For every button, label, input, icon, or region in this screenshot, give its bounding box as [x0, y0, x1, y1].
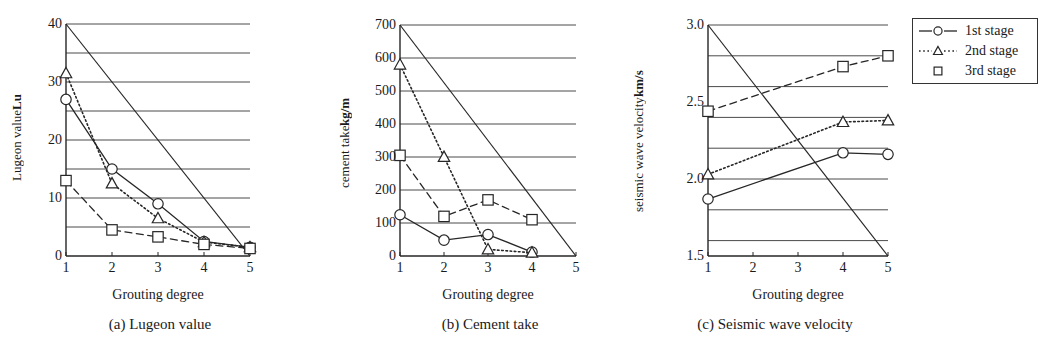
y-tick-label: 200 [356, 182, 396, 198]
data-point-square [527, 215, 537, 225]
x-tick-label: 4 [192, 260, 216, 276]
data-point-circle [395, 210, 405, 220]
data-point-triangle [438, 151, 449, 161]
x-tick-label: 4 [831, 260, 855, 276]
y-tick-label: 400 [356, 116, 396, 132]
data-point-circle [703, 194, 713, 204]
data-point-square [483, 195, 493, 205]
x-tick-label: 2 [100, 260, 124, 276]
data-point-triangle [702, 168, 713, 178]
y-tick-label: 600 [356, 50, 396, 66]
reference-line [400, 25, 576, 256]
y-tick-label: 20 [22, 132, 62, 148]
x-tick-label: 2 [432, 260, 456, 276]
data-point-circle [107, 164, 117, 174]
y-tick-label: 700 [356, 17, 396, 33]
data-point-circle [483, 229, 493, 239]
x-axis-title-b: Grouting degree [400, 287, 576, 303]
reference-line [708, 25, 888, 256]
data-point-triangle [106, 178, 117, 188]
y-tick-label: 2.5 [664, 94, 704, 110]
data-point-circle [883, 149, 893, 159]
y-tick-label: 2.0 [664, 171, 704, 187]
y-axis-unit-c: km/s [631, 71, 647, 98]
data-point-triangle [882, 115, 893, 125]
circle-icon [913, 22, 963, 40]
legend-label: 3rd stage [963, 63, 1016, 79]
series-line [400, 215, 532, 252]
y-tick-label: 10 [22, 190, 62, 206]
series-line [400, 155, 532, 219]
data-point-triangle [394, 59, 405, 69]
data-point-square [883, 51, 893, 61]
data-point-circle [153, 199, 163, 209]
data-point-square [245, 243, 255, 253]
legend-item-square: 3rd stage [913, 61, 1037, 81]
y-tick-label: 3.0 [664, 17, 704, 33]
data-point-square [107, 225, 117, 235]
plot-area-a [66, 24, 250, 256]
y-tick-label: 40 [22, 16, 62, 32]
data-point-square [395, 150, 405, 160]
y-axis-label-c-text: seismic wave velocity [631, 97, 647, 212]
series-line [708, 153, 888, 199]
data-point-triangle [60, 67, 71, 77]
figure-three-panel-charts: Lugeon value Lu 010203040 12345 Grouting… [0, 0, 1050, 353]
legend-label: 2nd stage [963, 43, 1018, 59]
chart-panel-cement-take: cement take kg/m 0100200300400500600700 … [340, 0, 640, 353]
data-point-circle [61, 94, 71, 104]
data-point-square [838, 61, 848, 71]
square-icon [913, 62, 963, 80]
panel-caption-b: (b) Cement take [350, 316, 630, 333]
legend: 1st stage2nd stage3rd stage [912, 18, 1038, 84]
y-axis-label-b-text: cement take [337, 126, 353, 188]
series-line [708, 56, 888, 111]
series-line [66, 99, 250, 247]
y-tick-label: 100 [356, 215, 396, 231]
x-tick-label: 2 [741, 260, 765, 276]
triangle-icon [913, 42, 963, 60]
plot-area-b [400, 25, 576, 256]
panel-caption-c: (c) Seismic wave velocity [630, 316, 920, 333]
legend-label: 1st stage [963, 23, 1014, 39]
x-tick-label: 4 [520, 260, 544, 276]
data-point-square [153, 232, 163, 242]
y-axis-unit-b: kg/m [337, 98, 353, 126]
y-axis-label-b: cement take kg/m [334, 18, 356, 268]
y-axis-unit-a: Lu [9, 94, 25, 110]
legend-frame: 1st stage2nd stage3rd stage [912, 18, 1038, 84]
y-tick-label: 300 [356, 149, 396, 165]
x-tick-label: 3 [786, 260, 810, 276]
x-tick-label: 5 [564, 260, 588, 276]
series-line [708, 120, 888, 174]
chart-panel-lugeon-value: Lugeon value Lu 010203040 12345 Grouting… [0, 0, 340, 353]
chart-panel-seismic-wave-velocity: seismic wave velocity km/s 1.52.02.53.0 … [640, 0, 900, 353]
data-point-square [439, 211, 449, 221]
x-tick-label: 1 [388, 260, 412, 276]
data-point-circle [439, 235, 449, 245]
y-tick-label: 500 [356, 83, 396, 99]
plot-area-c [708, 25, 888, 256]
data-point-square [61, 175, 71, 185]
data-point-triangle [152, 212, 163, 222]
data-point-square [199, 239, 209, 249]
data-point-triangle [482, 244, 493, 254]
x-tick-label: 5 [238, 260, 262, 276]
panel-caption-a: (a) Lugeon value [20, 316, 300, 333]
legend-item-triangle: 2nd stage [913, 41, 1037, 61]
x-tick-label: 1 [696, 260, 720, 276]
x-tick-label: 1 [54, 260, 78, 276]
legend-item-circle: 1st stage [913, 21, 1037, 41]
x-axis-title-c: Grouting degree [708, 287, 888, 303]
data-point-square [703, 106, 713, 116]
y-axis-label-c: seismic wave velocity km/s [628, 14, 650, 269]
x-axis-title-a: Grouting degree [66, 287, 250, 303]
x-tick-label: 5 [876, 260, 900, 276]
data-point-circle [838, 148, 848, 158]
y-tick-label: 30 [22, 74, 62, 90]
series-line [400, 65, 532, 253]
x-tick-label: 3 [476, 260, 500, 276]
x-tick-label: 3 [146, 260, 170, 276]
